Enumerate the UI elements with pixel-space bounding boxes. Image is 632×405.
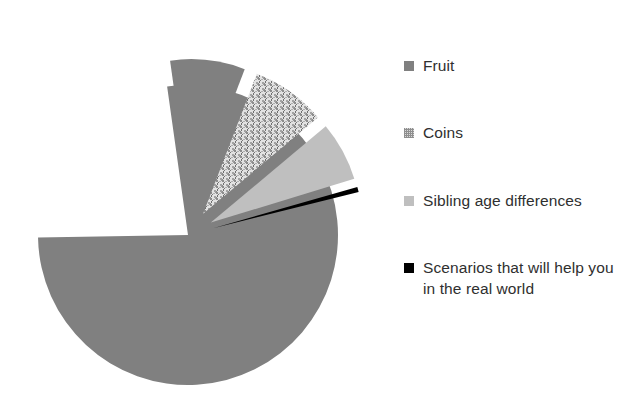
legend-item-coins[interactable]: Coins — [404, 123, 630, 143]
legend-swatch-icon — [404, 128, 414, 138]
legend-item-fruit[interactable]: Fruit — [404, 56, 630, 76]
pie-chart-canvas — [0, 0, 404, 405]
legend-item-scenarios[interactable]: Scenarios that will help you in the real… — [404, 258, 630, 299]
legend-item-label: Sibling age differences — [423, 191, 582, 211]
legend-item-label: Fruit — [423, 56, 455, 76]
chart-legend: Fruit Coins Sibling age differences Scen… — [404, 56, 630, 299]
pie-chart-figure: Fruit Coins Sibling age differences Scen… — [0, 0, 632, 405]
pie-slices — [38, 59, 359, 385]
legend-swatch-icon — [404, 263, 414, 273]
legend-item-label: Coins — [423, 123, 463, 143]
legend-swatch-icon — [404, 196, 414, 206]
legend-item-label: Scenarios that will help you in the real… — [423, 258, 630, 299]
legend-swatch-icon — [404, 61, 414, 71]
legend-item-sibling-age-differences[interactable]: Sibling age differences — [404, 191, 630, 211]
